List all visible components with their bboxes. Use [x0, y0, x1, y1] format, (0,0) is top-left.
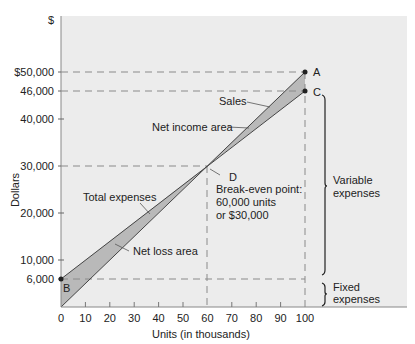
break-even-chart: $ $50,000 46,000 40,000 30,000 20,000 10… — [0, 0, 415, 344]
point-a-label: A — [313, 66, 321, 78]
net-income-area-annotation: Net income area — [152, 121, 234, 133]
y-tick-label: 30,000 — [20, 160, 54, 172]
variable-expenses-label-line2: expenses — [333, 187, 381, 199]
x-tick-label: 0 — [58, 312, 64, 324]
x-tick-label: 20 — [104, 312, 116, 324]
sales-annotation: Sales — [219, 95, 247, 107]
y-tick-label: 10,000 — [20, 254, 54, 266]
plot-background — [61, 16, 407, 307]
x-tick-label: 90 — [274, 312, 286, 324]
breakeven-annotation-line3: or $30,000 — [216, 209, 269, 221]
x-tick-label: 70 — [226, 312, 238, 324]
y-tick-label: 40,000 — [20, 113, 54, 125]
breakeven-annotation-line2: 60,000 units — [216, 196, 276, 208]
x-tick-label: 100 — [296, 312, 314, 324]
point-a-marker — [303, 70, 308, 75]
x-axis-title: Units (in thousands) — [152, 328, 250, 340]
total-expenses-annotation: Total expenses — [83, 191, 157, 203]
y-tick-label: 46,000 — [20, 85, 54, 97]
y-axis-title: Dollars — [9, 172, 21, 207]
x-tick-label: 80 — [250, 312, 262, 324]
point-d-label: D — [229, 171, 237, 183]
net-loss-area-annotation: Net loss area — [133, 245, 199, 257]
point-b-label: B — [63, 282, 70, 294]
x-tick-label: 30 — [128, 312, 140, 324]
x-tick-labels: 0 10 20 30 40 50 60 70 80 90 100 — [58, 312, 314, 324]
y-tick-label: 6,000 — [26, 273, 54, 285]
variable-expenses-label-line1: Variable — [333, 174, 373, 186]
y-tick-label: $50,000 — [14, 66, 54, 78]
fixed-expenses-label-line1: Fixed — [333, 281, 360, 293]
x-tick-label: 40 — [152, 312, 164, 324]
point-c-marker — [303, 89, 308, 94]
fixed-expenses-label-line2: expenses — [333, 293, 381, 305]
breakeven-annotation-line1: Break-even point: — [216, 183, 302, 195]
x-tick-label: 10 — [79, 312, 91, 324]
y-tick-label: 20,000 — [20, 207, 54, 219]
y-unit-label: $ — [48, 14, 54, 26]
point-c-label: C — [313, 86, 321, 98]
x-tick-label: 60 — [201, 312, 213, 324]
point-b-marker — [59, 277, 64, 282]
x-tick-label: 50 — [177, 312, 189, 324]
